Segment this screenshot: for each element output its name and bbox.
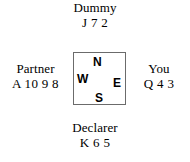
seat-east-cards: Q 4 3 <box>128 77 190 92</box>
seat-east-you: You Q 4 3 <box>128 62 190 91</box>
compass-box: N W E S <box>73 52 126 105</box>
seat-west-name: Partner <box>0 62 71 77</box>
seat-north-name: Dummy <box>0 1 190 16</box>
bridge-hand-diagram: Dummy J 7 2 Partner A 10 9 8 N W E S You… <box>0 0 190 162</box>
seat-north-dummy: Dummy J 7 2 <box>0 1 190 30</box>
compass-south-letter: S <box>95 92 103 104</box>
seat-west-cards: A 10 9 8 <box>0 77 71 92</box>
seat-south-name: Declarer <box>0 121 190 136</box>
seat-east-name: You <box>128 62 190 77</box>
seat-west-partner: Partner A 10 9 8 <box>0 62 71 91</box>
compass-east-letter: E <box>113 77 121 89</box>
seat-north-cards: J 7 2 <box>0 16 190 31</box>
seat-south-cards: K 6 5 <box>0 136 190 151</box>
compass-north-letter: N <box>93 56 102 68</box>
compass-west-letter: W <box>77 73 88 85</box>
seat-south-declarer: Declarer K 6 5 <box>0 121 190 150</box>
